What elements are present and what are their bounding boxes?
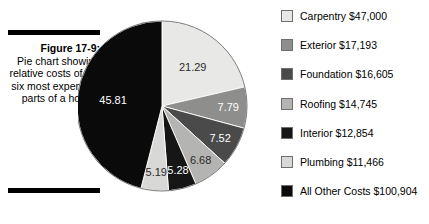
pie-slice-value-label: 7.79 [218, 101, 239, 113]
pie-slice-value-label: 5.19 [146, 166, 167, 178]
legend-color-swatch [281, 39, 293, 51]
legend-item-label: Roofing $14,745 [300, 98, 377, 110]
legend-color-swatch [281, 98, 293, 110]
legend-item-label: Interior $12,854 [300, 127, 374, 139]
legend-color-swatch [281, 68, 293, 80]
legend-item-label: All Other Costs $100,904 [300, 185, 417, 197]
legend-color-swatch [281, 127, 293, 139]
pie-chart-svg: 21.297.797.526.685.285.1945.81 [78, 12, 258, 208]
pie-slice-value-label: 6.68 [190, 154, 211, 166]
legend-item[interactable]: Foundation $16,605 [281, 67, 429, 81]
legend-item[interactable]: Carpentry $47,000 [281, 9, 429, 23]
legend-item[interactable]: Interior $12,854 [281, 126, 429, 140]
legend-item-label: Exterior $17,193 [300, 39, 377, 51]
legend-item-label: Foundation $16,605 [300, 68, 393, 80]
legend-item[interactable]: Roofing $14,745 [281, 97, 429, 111]
legend-item[interactable]: Plumbing $11,466 [281, 155, 429, 169]
legend-item-label: Carpentry $47,000 [300, 10, 387, 22]
pie-slice-value-label: 45.81 [99, 94, 127, 106]
pie-slice-value-label: 5.28 [167, 164, 188, 176]
legend-item[interactable]: All Other Costs $100,904 [281, 184, 429, 198]
legend-color-swatch [281, 156, 293, 168]
legend-color-swatch [281, 10, 293, 22]
pie-chart: 21.297.797.526.685.285.1945.81 [78, 12, 258, 208]
chart-legend: Carpentry $47,000Exterior $17,193Foundat… [281, 9, 429, 213]
legend-color-swatch [281, 185, 293, 197]
pie-slice-value-label: 7.52 [209, 132, 230, 144]
legend-item-label: Plumbing $11,466 [300, 156, 384, 168]
pie-slice-value-label: 21.29 [179, 61, 207, 73]
legend-item[interactable]: Exterior $17,193 [281, 38, 429, 52]
